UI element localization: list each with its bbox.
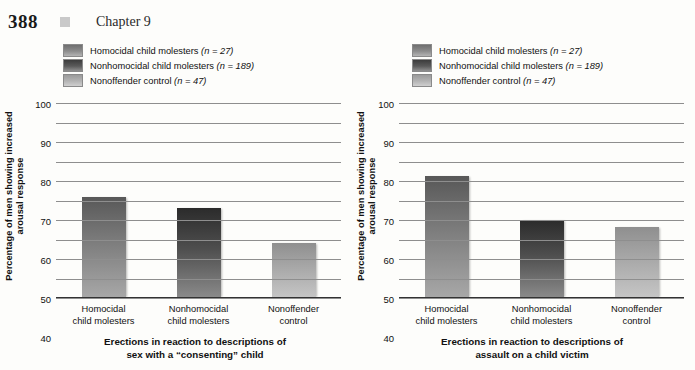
legend-swatch-nonoffender — [412, 74, 432, 87]
y-axis-title-left: Percentage of men showing increasedarous… — [6, 96, 24, 296]
gridline: 70 — [399, 162, 684, 163]
legend-label-homocidal: Homocidal child molesters (n = 27) — [439, 46, 582, 56]
legend-label-nonhomocidal: Nonhomocidal child molesters (n = 189) — [90, 61, 254, 71]
legend-label-nonhomocidal: Nonhomocidal child molesters (n = 189) — [439, 61, 603, 71]
y-axis-tick: 70 — [383, 216, 394, 227]
gridline: 50 — [56, 201, 341, 202]
y-axis-tick: 90 — [383, 138, 394, 149]
gridline: 80 — [399, 142, 684, 143]
legend-label-nonoffender: Nonoffender control (n = 47) — [90, 76, 206, 86]
x-axis-category-label: Homocidalchild molesters — [56, 304, 151, 334]
x-axis-category-label: Nonhomocidalchild molesters — [494, 304, 589, 334]
legend-swatch-homocidal — [63, 44, 83, 57]
bar-3[interactable] — [272, 243, 316, 298]
y-axis-tick: 50 — [40, 294, 51, 305]
x-axis-categories-left: Homocidalchild molestersNonhomocidalchil… — [56, 304, 341, 334]
y-axis-tick: 50 — [383, 294, 394, 305]
legend-item: Homocidal child molesters (n = 27) — [412, 43, 603, 58]
legend-item: Nonoffender control (n = 47) — [412, 73, 603, 88]
legend-label-homocidal: Homocidal child molesters (n = 27) — [90, 46, 233, 56]
y-axis-tick: 80 — [383, 177, 394, 188]
gridline: 70 — [56, 162, 341, 163]
bar-chart-left: Percentage of men showing increasedarous… — [0, 96, 360, 311]
legend-swatch-homocidal — [412, 44, 432, 57]
chart-caption-right: Erections in reaction to descriptions of… — [382, 336, 682, 361]
y-axis-tick: 100 — [378, 99, 394, 110]
legend-swatch-nonhomocidal — [412, 59, 432, 72]
gridline: 20 — [56, 259, 341, 260]
gridline: 0 — [56, 298, 341, 299]
gridline: 20 — [399, 259, 684, 260]
legend-item: Homocidal child molesters (n = 27) — [63, 43, 254, 58]
bar-3[interactable] — [615, 227, 659, 298]
x-axis-categories-right: Homocidalchild molestersNonhomocidalchil… — [399, 304, 684, 334]
bar-chart-right: Percentage of men showing increasedarous… — [352, 96, 695, 311]
gridline: 50 — [399, 201, 684, 202]
bar-2[interactable] — [177, 208, 221, 298]
legend-item: Nonoffender control (n = 47) — [63, 73, 254, 88]
gridline: 100 — [399, 103, 684, 104]
y-axis-title-right: Percentage of men showing increasedarous… — [358, 96, 376, 296]
y-axis-tick: 70 — [40, 216, 51, 227]
gridline: 40 — [56, 220, 341, 221]
y-axis-tick: 90 — [40, 138, 51, 149]
bar-1[interactable] — [425, 176, 469, 298]
gridline: 100 — [56, 103, 341, 104]
legend-swatch-nonoffender — [63, 74, 83, 87]
x-axis-category-label: Homocidalchild molesters — [399, 304, 494, 334]
x-axis-category-label: Nonoffendercontrol — [589, 304, 684, 334]
gridline: 60 — [399, 181, 684, 182]
legend-item: Nonhomocidal child molesters (n = 189) — [63, 58, 254, 73]
gridline: 10 — [399, 279, 684, 280]
gridline: 10 — [56, 279, 341, 280]
legend-left: Homocidal child molesters (n = 27) Nonho… — [63, 43, 254, 88]
y-axis-tick: 100 — [35, 99, 51, 110]
gridline: 80 — [56, 142, 341, 143]
legend-item: Nonhomocidal child molesters (n = 189) — [412, 58, 603, 73]
y-axis-tick: 60 — [40, 255, 51, 266]
y-axis-tick: 80 — [40, 177, 51, 188]
legend-swatch-nonhomocidal — [63, 59, 83, 72]
legend-label-nonoffender: Nonoffender control (n = 47) — [439, 76, 555, 86]
x-axis-category-label: Nonoffendercontrol — [246, 304, 341, 334]
gridline: 40 — [399, 220, 684, 221]
gridline: 90 — [399, 123, 684, 124]
chart-caption-left: Erections in reaction to descriptions of… — [40, 336, 350, 361]
chart-panel-right: Homocidal child molesters (n = 27) Nonho… — [352, 0, 695, 370]
gridline: 60 — [56, 181, 341, 182]
chart-panel-left: Homocidal child molesters (n = 27) Nonho… — [0, 0, 360, 370]
plot-area-left: 1009080706050403020100 — [56, 103, 341, 298]
legend-right: Homocidal child molesters (n = 27) Nonho… — [412, 43, 603, 88]
gridline: 30 — [56, 240, 341, 241]
gridline: 30 — [399, 240, 684, 241]
y-axis-tick: 60 — [383, 255, 394, 266]
x-axis-category-label: Nonhomocidalchild molesters — [151, 304, 246, 334]
bar-1[interactable] — [82, 197, 126, 298]
gridline: 90 — [56, 123, 341, 124]
gridline: 0 — [399, 298, 684, 299]
plot-area-right: 1009080706050403020100 — [399, 103, 684, 298]
